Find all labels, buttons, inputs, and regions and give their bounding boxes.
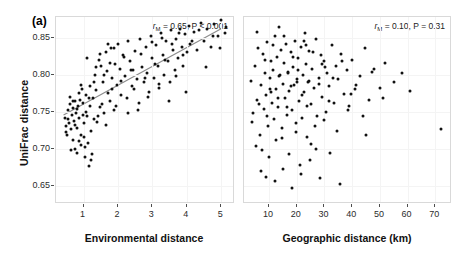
data-point [197,29,200,32]
data-point [134,50,137,53]
y-axis-title: UniFrac distance [18,63,30,183]
data-point [320,63,323,66]
data-point [78,92,81,95]
data-point [318,177,321,180]
x-tick-mark [434,204,435,207]
data-point [144,45,147,48]
data-point [83,156,86,159]
data-point [178,27,181,30]
data-point [115,104,118,107]
data-point [351,58,354,61]
data-point [125,97,128,100]
panel-a-x-axis-title: Environmental distance [85,232,203,244]
data-point [181,54,184,57]
figure-container: UniFrac distance 0.650.700.750.800.85 (a… [0,0,459,258]
data-point [111,88,114,91]
data-point [106,42,109,45]
data-point [262,107,265,110]
data-point [326,72,329,75]
data-point [92,118,95,121]
x-tick-label: 1 [80,209,85,219]
data-point [143,76,146,79]
data-point [279,73,282,76]
data-point [103,112,106,115]
data-point [296,69,299,72]
data-point [300,116,303,119]
data-point [72,120,75,123]
data-point [303,39,306,42]
data-point [83,135,86,138]
gridline-vertical [297,17,298,202]
gridline-vertical [187,17,188,202]
data-point [281,126,284,129]
gridline-horizontal [244,75,450,76]
x-tick-label: 30 [318,209,328,219]
data-point [133,88,136,91]
data-point [75,126,78,129]
data-point [299,163,302,166]
data-point [295,131,298,134]
data-point [137,101,140,104]
data-point [365,134,368,137]
data-point [153,77,156,80]
data-point [309,143,312,146]
x-tick-label: 2 [114,209,119,219]
data-point [255,98,258,101]
data-point [111,77,114,80]
data-point [259,134,262,137]
data-point [67,118,70,121]
data-point [86,57,89,60]
data-point [292,55,295,58]
data-point [298,100,301,103]
data-point [287,153,290,156]
data-point [312,86,315,89]
x-tick-label: 3 [149,209,154,219]
data-point [225,26,228,29]
data-point [76,152,79,155]
data-point [274,35,277,38]
data-point [135,78,138,81]
data-point [290,109,293,112]
data-point [123,75,126,78]
data-point [69,149,72,152]
x-tick-label: 50 [374,209,384,219]
data-point [370,70,373,73]
data-point [439,128,442,131]
data-point [323,66,326,69]
data-point [190,39,193,42]
data-point [102,73,105,76]
data-point [284,97,287,100]
data-point [71,100,74,103]
data-point [81,101,84,104]
data-point [113,47,116,50]
data-point [88,85,91,88]
data-point [261,149,264,152]
data-point [72,106,75,109]
gridline-horizontal [244,149,450,150]
data-point [182,64,185,67]
data-point [139,38,142,41]
data-point [154,63,157,66]
data-point [185,91,188,94]
data-point [267,125,270,128]
data-point [255,144,258,147]
data-point [223,32,226,35]
data-point [324,110,327,113]
data-point [259,169,262,172]
data-point [80,84,83,87]
data-point [107,92,110,95]
data-point [81,88,84,91]
data-point [283,35,286,38]
y-tick-label: 0.65 [8,180,50,190]
data-point [401,72,404,75]
data-point [94,66,97,69]
data-point [63,116,66,119]
data-point [129,60,132,63]
data-point [305,135,308,138]
data-point [70,128,73,131]
data-point [126,112,129,115]
data-point [291,66,294,69]
data-point [99,106,102,109]
data-point [96,120,99,123]
data-point [96,115,99,118]
